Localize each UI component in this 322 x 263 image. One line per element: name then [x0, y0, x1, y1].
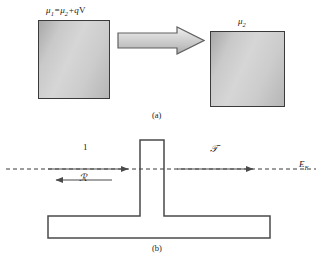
- transition-arrow-icon: [117, 26, 205, 56]
- transmission-coefficient-label: 𝒯: [210, 143, 218, 155]
- chemical-potential-label-right: μ2: [238, 16, 246, 28]
- reservoir-block-right: [210, 31, 285, 107]
- plus-charge: +q: [68, 5, 79, 15]
- barrier-profile-diagram: [0, 130, 322, 245]
- tunneling-barrier-figure: μ1=μ2+qV μ2 (a): [0, 0, 322, 263]
- voltage-symbol: V: [79, 5, 86, 15]
- fermi-subscript: F: [305, 164, 309, 171]
- equals-mu: =μ: [54, 5, 65, 15]
- caption-panel-b: (b): [152, 243, 162, 253]
- caption-panel-a: (a): [152, 110, 161, 120]
- incident-flux-label: 1: [83, 142, 88, 152]
- fermi-energy-label: EF: [299, 159, 308, 171]
- mu-subscript-right: 2: [243, 21, 246, 28]
- reservoir-block-left: [38, 20, 110, 99]
- potential-barrier-outline: [48, 140, 270, 238]
- reflection-coefficient-label: ℛ: [79, 172, 87, 183]
- chemical-potential-label-left: μ1=μ2+qV: [46, 5, 86, 17]
